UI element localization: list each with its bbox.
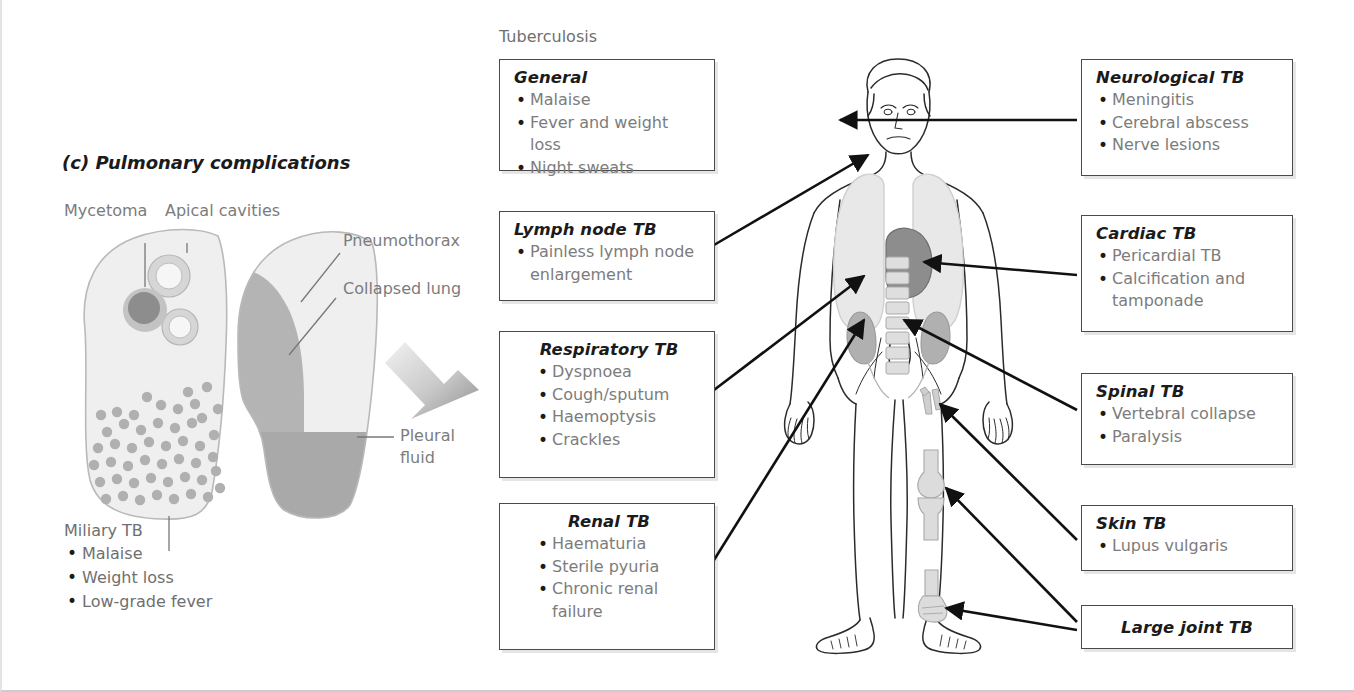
list-item: Malaise bbox=[64, 542, 212, 566]
right-lung-illustration bbox=[232, 230, 394, 542]
box-list: Malaise Fever and weight loss Night swea… bbox=[514, 89, 704, 180]
box-title: Lymph node TB bbox=[514, 220, 704, 239]
list-item: Haematuria bbox=[536, 533, 704, 556]
list-item: Chronic renal failure bbox=[536, 578, 704, 623]
box-title: Renal TB bbox=[514, 512, 704, 531]
box-skin-tb[interactable]: Skin TB Lupus vulgaris bbox=[1081, 505, 1293, 571]
list-item: Lupus vulgaris bbox=[1096, 535, 1282, 558]
list-item: Cerebral abscess bbox=[1096, 112, 1282, 135]
skin-lesion bbox=[920, 387, 941, 414]
label-pleural-fluid: Pleural fluid bbox=[400, 425, 455, 468]
spine-organ bbox=[886, 257, 909, 374]
box-spinal-tb[interactable]: Spinal TB Vertebral collapse Paralysis bbox=[1081, 373, 1293, 465]
list-item: Cough/sputum bbox=[536, 384, 704, 407]
list-item: Malaise bbox=[514, 89, 704, 112]
organs bbox=[834, 174, 964, 622]
lung-left-organ bbox=[834, 174, 884, 331]
connector-arrows bbox=[714, 120, 1077, 630]
label-collapsed-lung: Collapsed lung bbox=[343, 278, 461, 300]
figure-page: Tuberculosis (c) Pulmonary complications… bbox=[0, 0, 1354, 692]
box-list: Meningitis Cerebral abscess Nerve lesion… bbox=[1096, 89, 1282, 157]
label-apical-cavities: Apical cavities bbox=[165, 200, 280, 222]
list-item: Weight loss bbox=[64, 566, 212, 590]
box-list: Lupus vulgaris bbox=[1096, 535, 1282, 558]
list-item: Fever and weight loss bbox=[514, 112, 704, 157]
box-lymph-node-tb[interactable]: Lymph node TB Painless lymph node enlarg… bbox=[499, 211, 715, 301]
box-list: Dyspnoea Cough/sputum Haemoptysis Crackl… bbox=[514, 361, 704, 452]
box-list: Painless lymph node enlargement bbox=[514, 241, 704, 286]
box-large-joint-tb[interactable]: Large joint TB bbox=[1081, 605, 1293, 649]
box-title: Neurological TB bbox=[1096, 68, 1282, 87]
box-respiratory-tb[interactable]: Respiratory TB Dyspnoea Cough/sputum Hae… bbox=[499, 331, 715, 478]
box-title: Respiratory TB bbox=[514, 340, 704, 359]
box-list: Vertebral collapse Paralysis bbox=[1096, 403, 1282, 448]
miliary-tb-title: Miliary TB bbox=[64, 521, 212, 540]
left-lung-illustration bbox=[84, 230, 227, 552]
miliary-tb-block: Miliary TB Malaise Weight loss Low-grade… bbox=[64, 521, 212, 614]
list-item: Sterile pyuria bbox=[536, 556, 704, 579]
box-list: Haematuria Sterile pyuria Chronic renal … bbox=[514, 533, 704, 624]
box-list: Pericardial TB Calcification and tampona… bbox=[1096, 245, 1282, 313]
list-item: Painless lymph node enlargement bbox=[514, 241, 704, 286]
box-general[interactable]: General Malaise Fever and weight loss Ni… bbox=[499, 59, 715, 171]
list-item: Meningitis bbox=[1096, 89, 1282, 112]
list-item: Night sweats bbox=[514, 157, 704, 180]
box-title: Large joint TB bbox=[1121, 618, 1253, 637]
box-neurological-tb[interactable]: Neurological TB Meningitis Cerebral absc… bbox=[1081, 59, 1293, 176]
list-item: Calcification and tamponade bbox=[1096, 268, 1282, 313]
figure-main-title: Tuberculosis bbox=[499, 27, 597, 46]
box-cardiac-tb[interactable]: Cardiac TB Pericardial TB Calcification … bbox=[1081, 215, 1293, 332]
list-item: Pericardial TB bbox=[1096, 245, 1282, 268]
list-item: Dyspnoea bbox=[536, 361, 704, 384]
miliary-tb-list: Malaise Weight loss Low-grade fever bbox=[64, 542, 212, 614]
list-item: Vertebral collapse bbox=[1096, 403, 1282, 426]
panel-label: (c) Pulmonary complications bbox=[62, 152, 350, 173]
knee-joint bbox=[918, 450, 944, 540]
list-item: Haemoptysis bbox=[536, 406, 704, 429]
list-item: Paralysis bbox=[1096, 426, 1282, 449]
transfer-arrow bbox=[385, 342, 479, 419]
list-item: Crackles bbox=[536, 429, 704, 452]
list-item: Nerve lesions bbox=[1096, 134, 1282, 157]
box-title: Cardiac TB bbox=[1096, 224, 1282, 243]
box-title: Skin TB bbox=[1096, 514, 1282, 533]
box-renal-tb[interactable]: Renal TB Haematuria Sterile pyuria Chron… bbox=[499, 503, 715, 650]
label-pneumothorax: Pneumothorax bbox=[343, 230, 460, 252]
list-item: Low-grade fever bbox=[64, 590, 212, 614]
box-title: Spinal TB bbox=[1096, 382, 1282, 401]
ankle-joint bbox=[918, 570, 947, 622]
box-title: General bbox=[514, 68, 704, 87]
label-mycetoma: Mycetoma bbox=[64, 200, 147, 222]
